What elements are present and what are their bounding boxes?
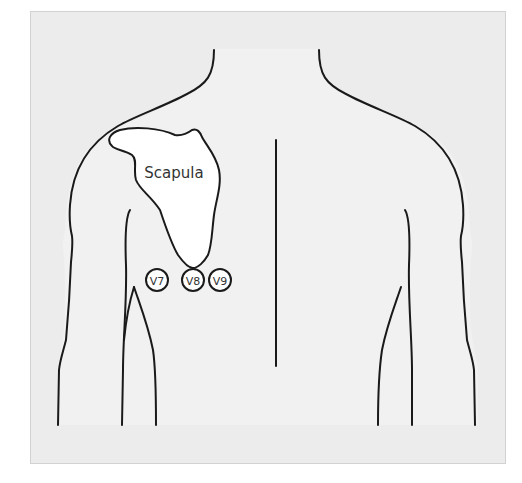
scapula-label: Scapula xyxy=(144,164,203,182)
electrode-v8-label: V8 xyxy=(186,275,201,288)
electrode-v9: V9 xyxy=(209,269,231,291)
back-torso-figure: Scapula V7 V8 V9 xyxy=(0,0,522,483)
electrode-v8: V8 xyxy=(182,269,204,291)
body-region xyxy=(58,49,478,425)
electrode-v7: V7 xyxy=(146,269,168,291)
electrode-v7-label: V7 xyxy=(150,275,165,288)
electrode-v9-label: V9 xyxy=(213,275,228,288)
